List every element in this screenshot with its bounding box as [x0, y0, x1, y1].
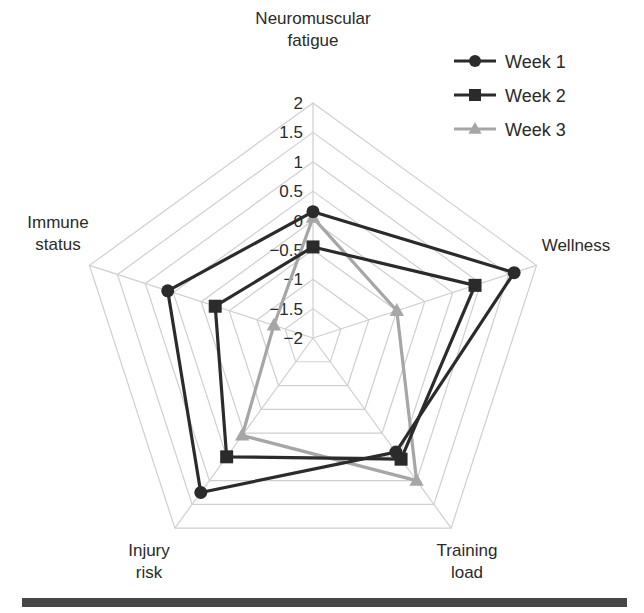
axis-label-neuromuscular-fatigue: Neuromuscularfatigue — [255, 9, 371, 50]
marker-circle — [469, 55, 481, 67]
series-week-2 — [209, 240, 482, 465]
series-line — [242, 218, 416, 481]
legend-label: Week 3 — [505, 120, 566, 140]
radar-grid — [90, 103, 537, 528]
axis-spoke — [313, 265, 536, 338]
marker-circle — [194, 486, 207, 499]
axis-label-injury-risk: Injuryrisk — [128, 541, 170, 582]
marker-circle — [389, 446, 402, 459]
legend-item-week-3: Week 3 — [454, 120, 566, 140]
marker-circle — [161, 284, 174, 297]
legend-label: Week 1 — [505, 52, 566, 72]
marker-square — [469, 89, 481, 101]
bottom-divider-bar — [22, 598, 627, 607]
tick-label: 0.5 — [279, 182, 303, 201]
series-line — [215, 247, 475, 459]
legend-label: Week 2 — [505, 86, 566, 106]
radar-chart: 21.510.50−0.5−1−1.5−2 Neuromuscularfatig… — [0, 0, 644, 613]
legend: Week 1Week 2Week 3 — [454, 52, 566, 140]
axis-label-wellness: Wellness — [542, 236, 611, 255]
legend-item-week-1: Week 1 — [454, 52, 566, 72]
axis-label-immune-status: Immunestatus — [27, 213, 88, 254]
marker-circle — [307, 205, 320, 218]
tick-label: −1.5 — [269, 300, 303, 319]
marker-triangle — [235, 428, 249, 441]
tick-label: 2 — [294, 94, 303, 113]
tick-label: −2 — [284, 329, 303, 348]
data-series — [161, 205, 520, 499]
marker-circle — [508, 266, 521, 279]
tick-label: 1.5 — [279, 123, 303, 142]
tick-label: 1 — [294, 153, 303, 172]
legend-item-week-2: Week 2 — [454, 86, 566, 106]
marker-square — [469, 279, 482, 292]
marker-square — [307, 240, 320, 253]
axis-label-training-load: Trainingload — [437, 541, 498, 582]
marker-square — [209, 300, 222, 313]
marker-square — [220, 450, 233, 463]
